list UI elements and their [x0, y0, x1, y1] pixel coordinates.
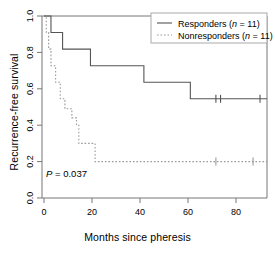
- p-value-annotation: P = 0.037: [46, 168, 87, 179]
- p-value-number: = 0.037: [52, 168, 87, 179]
- x-tick-label: 60: [183, 207, 193, 217]
- x-tick-label: 80: [231, 207, 241, 217]
- x-tick-label: 40: [135, 207, 145, 217]
- x-axis-tick-labels: 0 20 40 60 80: [41, 207, 241, 217]
- x-tick-label: 0: [41, 207, 46, 217]
- plot-canvas: 0.0 0.2 0.4 0.6 0.8 1.0 0 20 40 60 80: [0, 0, 275, 257]
- y-tick-label: 0.6: [25, 83, 35, 96]
- x-axis-title: Months since pheresis: [0, 231, 275, 243]
- kaplan-meier-figure: 0.0 0.2 0.4 0.6 0.8 1.0 0 20 40 60 80: [0, 0, 275, 257]
- y-tick-label: 0.2: [25, 155, 35, 168]
- y-axis-title: Recurrence-free survival: [8, 12, 20, 212]
- legend-nonresponders-name: Nonresponders: [178, 31, 240, 41]
- legend-label-responders: Responders (n = 11): [178, 19, 260, 29]
- x-axis-ticks: [44, 198, 236, 203]
- y-axis-tick-labels: 0.0 0.2 0.4 0.6 0.8 1.0: [25, 10, 35, 205]
- y-tick-label: 0.4: [25, 119, 35, 132]
- y-tick-label: 0.8: [25, 46, 35, 59]
- y-tick-label: 0.0: [25, 192, 35, 205]
- legend-label-nonresponders: Nonresponders (n = 11): [178, 31, 273, 41]
- y-tick-label: 1.0: [25, 10, 35, 23]
- x-tick-label: 20: [87, 207, 97, 217]
- y-axis-ticks: [37, 16, 42, 198]
- legend-responders-name: Responders: [178, 19, 227, 29]
- legend: Responders (n = 11) Nonresponders (n = 1…: [151, 13, 273, 43]
